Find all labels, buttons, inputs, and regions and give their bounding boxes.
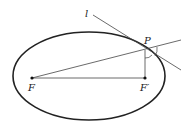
ellipse-diagram: l P F F′ <box>0 0 192 128</box>
label-F-prime: F′ <box>139 82 150 93</box>
label-F: F <box>27 82 36 93</box>
tangent-line-l <box>93 15 181 70</box>
focus-F-dot <box>30 76 33 79</box>
angle-arc-lower <box>145 55 152 58</box>
label-l: l <box>85 8 88 19</box>
ellipse <box>13 32 165 120</box>
focus-F-prime-dot <box>143 76 146 79</box>
label-P: P <box>143 35 151 46</box>
